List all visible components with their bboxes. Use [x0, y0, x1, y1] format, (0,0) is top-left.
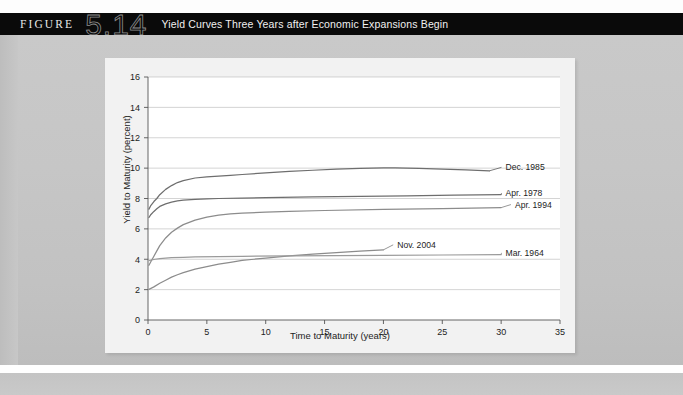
x-axis-title: Time to Maturity (years) [105, 330, 575, 341]
y-tick-label: 16 [130, 72, 140, 82]
figure-word-label: FIGURE [20, 18, 74, 30]
page-divider-band [0, 365, 683, 373]
series-label: Apr. 1978 [505, 188, 542, 198]
y-tick-label: 8 [135, 194, 140, 204]
page-bottom-strip [0, 373, 683, 395]
figure-number: 5.14 [85, 14, 147, 35]
series-label: Apr. 1994 [515, 200, 552, 210]
y-tick-label: 0 [135, 315, 140, 325]
y-axis-title: Yield to Maturity (percent) [121, 110, 132, 230]
figure-screenshot: FIGURE 5.14 Yield Curves Three Years aft… [0, 0, 683, 395]
figure-title: Yield Curves Three Years after Economic … [162, 18, 449, 30]
figure-header-bar: FIGURE 5.14 Yield Curves Three Years aft… [0, 13, 683, 35]
y-tick-label: 6 [135, 224, 140, 234]
chart-plot-area: 024681012141605101520253035Dec. 1985Apr.… [105, 58, 575, 353]
page-top-margin [0, 0, 683, 13]
y-tick-label: 4 [135, 255, 140, 265]
series-label: Nov. 2004 [397, 240, 436, 250]
series-label: Dec. 1985 [505, 162, 544, 172]
figure-panel: 024681012141605101520253035Dec. 1985Apr.… [105, 58, 575, 353]
yield-curve-chart: 024681012141605101520253035Dec. 1985Apr.… [105, 58, 575, 353]
y-tick-label: 2 [135, 285, 140, 295]
series-label: Mar. 1964 [505, 248, 543, 258]
page-left-gutter [0, 35, 18, 365]
